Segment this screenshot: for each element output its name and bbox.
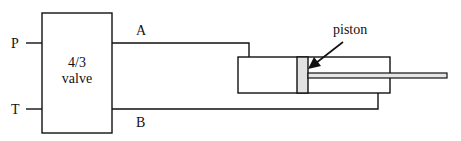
line-a [112,43,249,57]
port-a-label: A [136,23,147,38]
valve-label-line1: 4/3 [68,55,86,70]
piston-label: piston [333,22,367,37]
port-p-label: P [11,36,19,51]
piston [297,57,308,93]
port-b-label: B [136,115,145,130]
piston-arrow-shaft [316,42,343,63]
port-t-label: T [11,102,20,117]
piston-arrow-head-icon [308,57,321,69]
piston-rod [308,73,447,78]
line-b [112,93,378,109]
valve-label-line2: valve [62,71,92,86]
hydraulic-diagram: 4/3 valve P T A B piston [0,0,461,141]
